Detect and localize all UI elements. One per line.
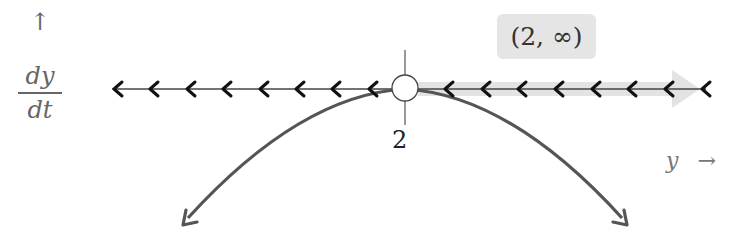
fraction-bar [18, 92, 62, 94]
equilibrium-open-circle [392, 75, 418, 101]
dydt-label: dy dt [18, 62, 62, 124]
right-arrow-icon: → [697, 148, 715, 173]
dydt-denominator: dt [18, 96, 62, 124]
phase-line-diagram [0, 0, 746, 235]
y-variable: y [666, 148, 678, 173]
interval-label: (2, ∞) [497, 14, 596, 59]
y-axis-label: y → [666, 148, 716, 173]
vertical-arrow-icon: ↑ [30, 8, 50, 36]
dydt-numerator: dy [18, 62, 62, 90]
equilibrium-value-label: 2 [392, 126, 407, 154]
